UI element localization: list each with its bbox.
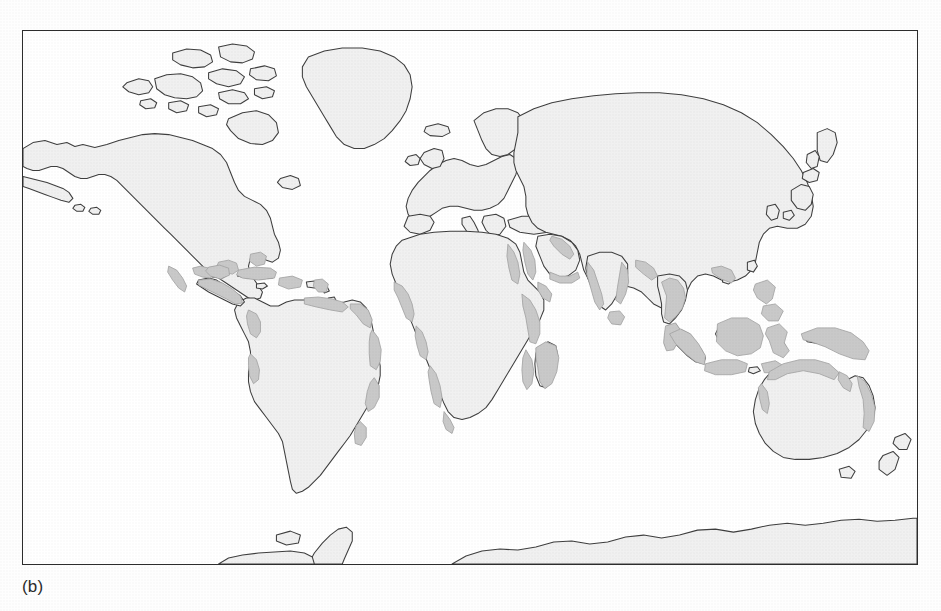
figure-page: (b) — [0, 0, 941, 611]
highlight-new-guinea-band — [801, 328, 869, 360]
land-aleutian-island-2 — [89, 207, 101, 214]
highlight-brazil-south-coast — [354, 422, 366, 446]
land-new-zealand-north — [893, 433, 911, 449]
highlight-hispaniola-band — [278, 276, 302, 289]
world-map-svg — [23, 31, 917, 564]
land-british-isles — [420, 149, 444, 169]
land-bali-nusa — [748, 367, 760, 374]
land-europe-mainland — [406, 155, 518, 223]
land-antarctica-main — [452, 518, 917, 564]
land-newfoundland — [277, 175, 300, 189]
highlight-philippines-band — [753, 280, 775, 304]
land-jamaica — [256, 283, 267, 289]
land-arctic-island-3 — [173, 49, 213, 68]
land-alaska-peninsula — [23, 176, 73, 202]
land-arctic-island-9 — [169, 101, 189, 113]
world-map-panel — [22, 30, 918, 565]
land-antarctica-islet — [276, 531, 300, 545]
land-iceland — [424, 124, 450, 137]
land-greenland — [302, 48, 412, 149]
land-arctic-island-11 — [140, 99, 157, 109]
land-kamchatka — [817, 129, 837, 163]
land-africa — [390, 231, 544, 419]
highlight-brazil-ne-coast — [369, 330, 381, 370]
highlight-cuba-band — [237, 267, 277, 280]
highlight-sri-lanka-band — [608, 311, 625, 325]
highlight-sulawesi-band — [765, 324, 789, 358]
land-arctic-island-5 — [209, 69, 245, 87]
land-sakhalin — [806, 151, 819, 169]
land-banks-island — [123, 79, 153, 95]
land-new-zealand-south — [879, 451, 899, 475]
land-japan-hokkaido — [802, 168, 819, 182]
land-antarctic-peninsula — [308, 527, 352, 564]
land-arctic-island-7 — [219, 90, 249, 104]
land-tasmania — [839, 466, 855, 478]
highlight-java-band — [704, 360, 747, 375]
highlight-baja-pacific — [168, 266, 187, 292]
highlight-florida — [249, 252, 266, 266]
highlight-borneo-band — [716, 318, 763, 356]
land-iberia — [404, 214, 434, 234]
land-arctic-island-6 — [249, 66, 276, 81]
landmass-layer — [23, 44, 917, 564]
land-aleutian-island-1 — [73, 204, 85, 211]
highlight-mozambique-coast — [522, 350, 534, 390]
highlight-mindanao-band — [761, 304, 783, 321]
land-antarctica-west — [219, 551, 315, 564]
land-ireland — [405, 155, 420, 166]
land-arctic-island-10 — [199, 105, 219, 117]
land-victoria-island — [155, 74, 203, 99]
figure-caption: (b) — [22, 576, 43, 598]
land-baffin-island — [227, 111, 279, 145]
highlight-lesser-antilles-band — [313, 279, 328, 292]
land-arctic-island-4 — [219, 44, 255, 63]
land-arctic-island-8 — [254, 87, 274, 99]
